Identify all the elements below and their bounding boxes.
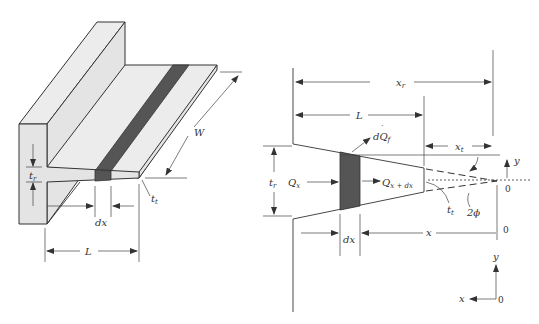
label-origin-mid: 0 xyxy=(503,225,509,235)
fin-diagram: tr dx tt L W xyxy=(0,0,539,324)
label-root-distance: xr xyxy=(396,77,406,90)
element-cross-section xyxy=(95,170,111,181)
label-heat-out: Qx + dx xyxy=(382,177,413,190)
label-tip-thickness: tt xyxy=(447,204,454,217)
label-root-thickness: tr xyxy=(269,177,277,190)
label-element-width: dx xyxy=(95,217,107,228)
label-y-top: y xyxy=(513,155,520,166)
label-fin-length: L xyxy=(355,110,363,121)
label-position: x xyxy=(426,227,432,238)
label-axes-origin: 0 xyxy=(498,295,504,305)
label-tip-thickness: tt xyxy=(151,193,158,206)
label-axes-x: x xyxy=(459,293,465,304)
svg-text:·: · xyxy=(381,121,384,130)
label-fin-length: L xyxy=(84,246,92,257)
label-fin-width: W xyxy=(194,127,205,138)
label-axes-y: y xyxy=(492,251,499,262)
label-fin-heat-loss: dQf xyxy=(373,131,392,144)
label-tip-distance: xt xyxy=(455,141,464,154)
fin-cross-section-view: xr L xt dQf · Qx Qx + dx tr tt 2ϕ xyxy=(263,50,530,312)
label-heat-in: Qx xyxy=(288,177,300,190)
label-angle: 2ϕ xyxy=(466,207,480,218)
isometric-fin-view: tr dx tt L W xyxy=(19,22,242,262)
label-origin-top: 0 xyxy=(505,184,511,194)
differential-element xyxy=(340,152,360,210)
label-element-width: dx xyxy=(343,234,355,245)
